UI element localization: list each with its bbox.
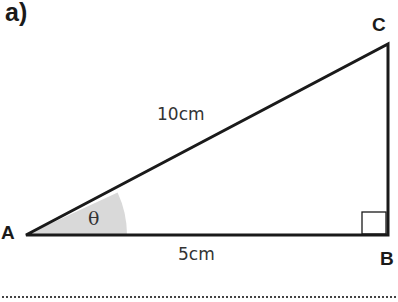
right-angle-marker: [362, 212, 386, 234]
vertex-c-label: C: [372, 14, 386, 36]
angle-theta-label: θ: [88, 207, 99, 229]
vertex-a-label: A: [1, 222, 15, 244]
triangle-abc: [26, 44, 388, 235]
base-length-label: 5cm: [178, 244, 215, 264]
hypotenuse-length-label: 10cm: [157, 104, 205, 124]
answer-dotted-line: [2, 296, 396, 298]
vertex-b-label: B: [380, 248, 394, 270]
